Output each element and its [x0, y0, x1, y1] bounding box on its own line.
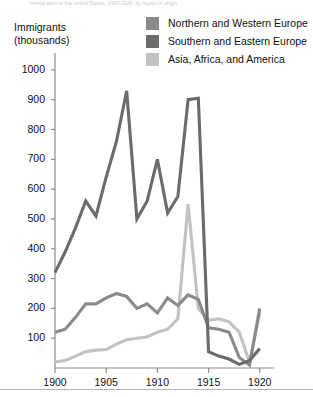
x-axis-tick-label: 1910	[137, 376, 177, 388]
y-axis-tick-label: 600	[11, 182, 45, 194]
x-axis-tick-label: 1905	[86, 376, 126, 388]
y-axis-tick-label: 200	[11, 301, 45, 313]
series-line-northern-and-western-europe	[55, 293, 260, 365]
y-axis-tick-label: 400	[11, 242, 45, 254]
y-axis-tick-label: 300	[11, 272, 45, 284]
series-line-asia-africa-and-america	[55, 204, 260, 362]
x-axis-tick-label: 1915	[189, 376, 229, 388]
x-axis-tick-label: 1900	[35, 376, 75, 388]
y-axis-tick-label: 100	[11, 331, 45, 343]
y-axis-tick-label: 500	[11, 212, 45, 224]
y-axis-tick-label: 700	[11, 152, 45, 164]
y-axis-tick-label: 900	[11, 93, 45, 105]
bottom-divider	[0, 389, 313, 390]
immigration-line-chart: Immigration to the United States, 1900-1…	[0, 0, 313, 397]
y-axis-tick-label: 800	[11, 123, 45, 135]
y-axis-tick-label: 1000	[11, 63, 45, 75]
plot-area	[0, 0, 313, 397]
x-axis-tick-label: 1920	[240, 376, 280, 388]
